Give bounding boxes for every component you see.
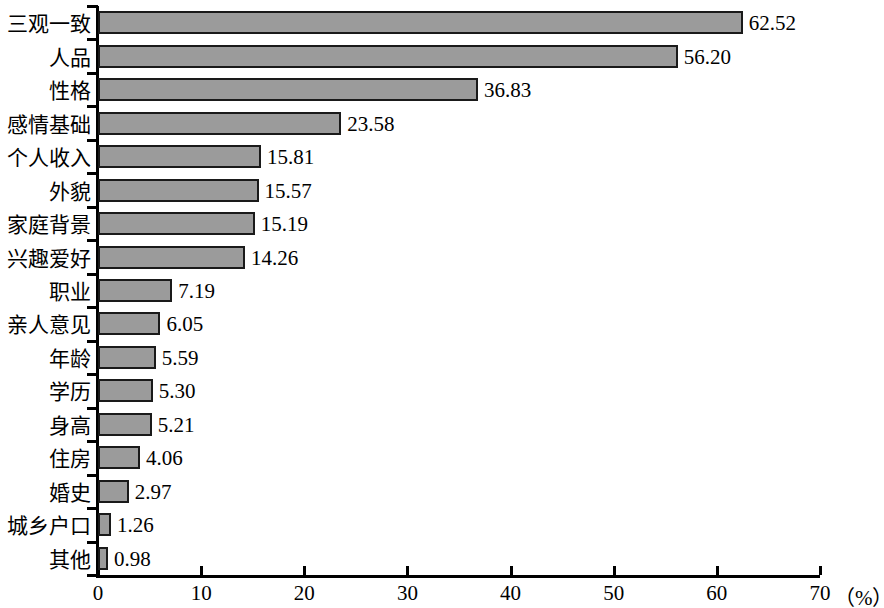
- bar-row: 婚史2.97: [98, 480, 820, 503]
- bar-value-label: 0.98: [114, 546, 151, 571]
- bar-row: 感情基础23.58: [98, 112, 820, 135]
- category-label: 外貌: [49, 175, 91, 205]
- category-label: 住房: [49, 442, 91, 472]
- bar: [98, 413, 152, 436]
- bar-value-label: 62.52: [749, 10, 796, 35]
- category-label: 兴趣爱好: [7, 242, 91, 272]
- bar-value-label: 4.06: [146, 445, 183, 470]
- x-axis-unit-label: （%）: [834, 581, 884, 608]
- bar-row: 性格36.83: [98, 78, 820, 101]
- bar: [98, 312, 160, 335]
- bar: [98, 446, 140, 469]
- bar-value-label: 23.58: [347, 111, 394, 136]
- bar: [98, 246, 245, 269]
- category-label: 感情基础: [7, 108, 91, 138]
- x-axis-tick-label: 40: [500, 581, 521, 606]
- bar-row: 其他0.98: [98, 547, 820, 570]
- category-label: 其他: [49, 543, 91, 573]
- bar: [98, 45, 678, 68]
- bar: [98, 145, 261, 168]
- bar-value-label: 2.97: [135, 479, 172, 504]
- x-axis-tick-label: 10: [191, 581, 212, 606]
- category-label: 三观一致: [7, 7, 91, 37]
- category-label: 亲人意见: [7, 308, 91, 338]
- category-label: 婚史: [49, 476, 91, 506]
- bar-row: 个人收入15.81: [98, 145, 820, 168]
- category-label: 家庭背景: [7, 208, 91, 238]
- bar: [98, 78, 478, 101]
- bar-value-label: 15.57: [265, 178, 312, 203]
- category-label: 职业: [49, 275, 91, 305]
- bar-row: 住房4.06: [98, 446, 820, 469]
- bar-row: 亲人意见6.05: [98, 312, 820, 335]
- category-label: 身高: [49, 409, 91, 439]
- bar-value-label: 15.19: [261, 211, 308, 236]
- bar-row: 家庭背景15.19: [98, 212, 820, 235]
- bar-row: 外貌15.57: [98, 179, 820, 202]
- bar-value-label: 56.20: [684, 44, 731, 69]
- bar-value-label: 5.30: [159, 378, 196, 403]
- bar-value-label: 5.21: [158, 412, 195, 437]
- bar-row: 人品56.20: [98, 45, 820, 68]
- bar-row: 职业7.19: [98, 279, 820, 302]
- bar: [98, 212, 255, 235]
- bar-row: 年龄5.59: [98, 346, 820, 369]
- bar: [98, 513, 111, 536]
- bar-value-label: 36.83: [484, 77, 531, 102]
- bar-value-label: 5.59: [162, 345, 199, 370]
- category-label: 城乡户口: [7, 509, 91, 539]
- x-axis-tick-label: 20: [294, 581, 315, 606]
- bar-value-label: 15.81: [267, 144, 314, 169]
- bar: [98, 346, 156, 369]
- bar: [98, 11, 743, 34]
- bar: [98, 379, 153, 402]
- bar: [98, 279, 172, 302]
- bar-value-label: 6.05: [166, 311, 203, 336]
- bar-row: 学历5.30: [98, 379, 820, 402]
- bar: [98, 179, 259, 202]
- category-label: 年龄: [49, 342, 91, 372]
- bar: [98, 480, 129, 503]
- x-axis-line: [96, 575, 820, 578]
- bar-value-label: 14.26: [251, 245, 298, 270]
- plot-area: 010203040506070（%）三观一致62.52人品56.20性格36.8…: [98, 6, 820, 575]
- category-label: 人品: [49, 41, 91, 71]
- x-axis-tick-label: 60: [706, 581, 727, 606]
- bar: [98, 112, 341, 135]
- x-axis-tick-label: 70: [810, 581, 831, 606]
- bar-row: 城乡户口1.26: [98, 513, 820, 536]
- bar: [98, 547, 108, 570]
- category-label: 性格: [49, 74, 91, 104]
- x-axis-tick-label: 30: [397, 581, 418, 606]
- bar-row: 三观一致62.52: [98, 11, 820, 34]
- bar-row: 身高5.21: [98, 413, 820, 436]
- bar-row: 兴趣爱好14.26: [98, 246, 820, 269]
- category-label: 个人收入: [7, 141, 91, 171]
- bar-value-label: 1.26: [117, 512, 154, 537]
- category-label: 学历: [49, 375, 91, 405]
- bar-value-label: 7.19: [178, 278, 215, 303]
- x-axis-tick-label: 0: [93, 581, 104, 606]
- x-axis-tick-label: 50: [603, 581, 624, 606]
